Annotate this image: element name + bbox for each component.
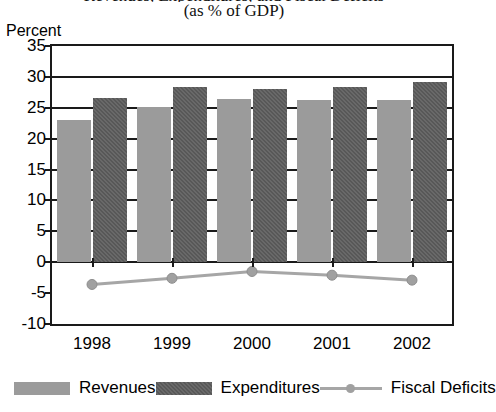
y-axis-tick-label: 0 xyxy=(4,253,46,270)
y-axis-tick-label: 20 xyxy=(4,130,46,147)
y-tick-mark xyxy=(45,45,52,47)
x-tick-mark xyxy=(92,258,94,267)
y-tick-mark xyxy=(45,107,52,109)
x-axis-tick-label: 2000 xyxy=(212,334,292,354)
x-tick-mark xyxy=(252,258,254,267)
x-axis-tick-label: 1998 xyxy=(52,334,132,354)
x-axis-tick-label: 1999 xyxy=(132,334,212,354)
legend-item-fiscal-deficits: Fiscal Deficits xyxy=(320,378,496,398)
legend-swatch-expenditures-icon xyxy=(156,382,212,395)
fiscal-deficits-data-point xyxy=(87,279,97,289)
y-tick-mark xyxy=(45,76,52,78)
y-tick-mark xyxy=(45,323,52,325)
fiscal-deficits-line xyxy=(52,46,452,324)
y-axis-tick-label: -10 xyxy=(4,315,46,332)
x-tick-mark xyxy=(412,258,414,267)
plot-area xyxy=(50,44,454,326)
y-tick-mark xyxy=(45,169,52,171)
fiscal-deficits-data-point xyxy=(167,273,177,283)
y-axis-tick-label: 15 xyxy=(4,161,46,178)
legend-label-expenditures: Expenditures xyxy=(221,378,320,398)
x-tick-mark xyxy=(332,258,334,267)
y-tick-mark xyxy=(45,292,52,294)
legend-line-marker-icon xyxy=(320,381,382,395)
fiscal-deficits-data-point xyxy=(247,266,257,276)
legend-label-revenues: Revenues xyxy=(79,378,156,398)
y-tick-mark xyxy=(45,199,52,201)
legend-label-fiscal-deficits: Fiscal Deficits xyxy=(391,378,496,398)
y-axis-tick-label: -5 xyxy=(4,284,46,301)
y-tick-mark xyxy=(45,230,52,232)
x-tick-mark xyxy=(172,258,174,267)
y-tick-mark xyxy=(45,138,52,140)
legend-item-expenditures: Expenditures xyxy=(156,378,320,398)
y-axis-tick-label: 30 xyxy=(4,68,46,85)
fiscal-deficits-data-point xyxy=(407,275,417,285)
y-axis-tick-label: 35 xyxy=(4,37,46,54)
y-axis-tick-label: 5 xyxy=(4,222,46,239)
chart-legend: Revenues Expenditures Fiscal Deficits xyxy=(14,376,458,400)
y-tick-mark xyxy=(45,261,52,263)
chart-subtitle: (as % of GDP) xyxy=(0,1,468,21)
y-axis-tick-label: 25 xyxy=(4,99,46,116)
x-axis-tick-label: 2002 xyxy=(372,334,452,354)
fiscal-deficits-data-point xyxy=(327,270,337,280)
legend-item-revenues: Revenues xyxy=(14,378,156,398)
y-axis-tick-label: 10 xyxy=(4,191,46,208)
x-axis-tick-label: 2001 xyxy=(292,334,372,354)
legend-swatch-revenues-icon xyxy=(14,382,70,395)
